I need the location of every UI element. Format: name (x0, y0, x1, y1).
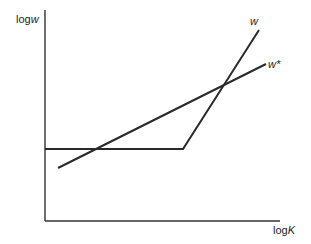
x-axis-label-prefix: log (273, 224, 288, 236)
diagram-canvas (0, 0, 311, 244)
x-axis-label-var: K (288, 224, 295, 236)
y-axis-label: logw (16, 13, 39, 25)
y-axis-label-prefix: log (16, 13, 31, 25)
curve-w-star-label: w* (268, 58, 280, 70)
y-axis-label-var: w (31, 13, 39, 25)
curve-w-label: w (250, 15, 258, 27)
curve-w (45, 30, 259, 149)
x-axis-label: logK (273, 224, 295, 236)
curve-w-star (58, 64, 266, 168)
